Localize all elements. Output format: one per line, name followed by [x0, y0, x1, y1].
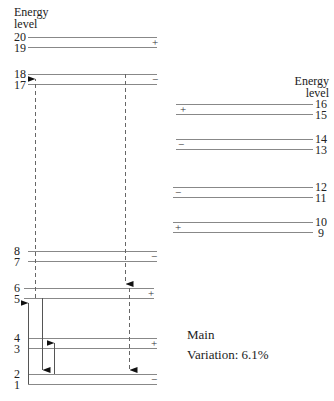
- level-label: 11: [315, 192, 327, 204]
- parity-sign: +: [180, 104, 186, 115]
- level-label: 15: [315, 109, 327, 121]
- level-label: 1: [14, 379, 20, 391]
- level-label: 5: [14, 293, 20, 305]
- parity-sign: +: [152, 37, 158, 48]
- level-label: 13: [315, 144, 327, 156]
- annotation-title: Main: [187, 327, 214, 343]
- solid-transitions: [29, 298, 55, 384]
- level-label: 9: [318, 227, 324, 239]
- annotation-variation: Variation: 6.1%: [187, 347, 269, 363]
- dashed-transitions: [36, 74, 130, 370]
- level-label: 3: [14, 343, 20, 355]
- right-axis-title: Energy level: [295, 75, 329, 99]
- parity-sign: −: [152, 74, 158, 85]
- parity-sign: −: [175, 187, 181, 198]
- level-label: 19: [14, 42, 26, 54]
- parity-sign: −: [151, 251, 157, 262]
- parity-sign: −: [151, 374, 157, 385]
- left-axis-title: Energy level: [14, 6, 48, 30]
- parity-sign: −: [178, 139, 184, 150]
- right-level-lines: [173, 105, 313, 233]
- energy-level-diagram: [0, 0, 334, 401]
- parity-sign: +: [148, 288, 154, 299]
- parity-sign: +: [151, 338, 157, 349]
- level-label: 7: [14, 256, 20, 268]
- level-label: 17: [14, 79, 26, 91]
- parity-sign: +: [175, 222, 181, 233]
- left-level-lines: [24, 38, 157, 385]
